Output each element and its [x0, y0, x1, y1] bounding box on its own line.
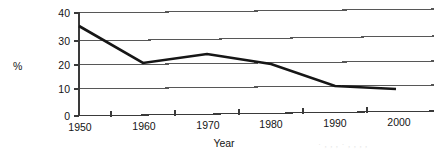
y-tick-label-40: 40 [58, 7, 70, 19]
x-tick-label-1980: 1980 [259, 118, 283, 130]
y-tick-label-30: 30 [58, 35, 70, 47]
line-chart: 40 30 20 10 0 % 1950 1960 1970 1980 1990… [0, 0, 443, 152]
x-tick-label-1970: 1970 [196, 119, 220, 131]
x-tick-label-1950: 1950 [68, 121, 92, 133]
y-tick-label-20: 20 [58, 59, 70, 71]
x-tick-label-1960: 1960 [132, 120, 156, 132]
y-tick-label-10: 10 [58, 83, 70, 95]
chart-figure: 40 30 20 10 0 % 1950 1960 1970 1980 1990… [0, 0, 443, 152]
x-tick-label-2000: 2000 [387, 116, 411, 128]
chart-background [0, 0, 443, 152]
scan-artifact-text: · , , , · , , , , [318, 139, 368, 149]
y-axis-title: % [13, 60, 22, 72]
x-axis-title: Year [213, 137, 235, 149]
x-tick-label-1990: 1990 [323, 117, 347, 129]
